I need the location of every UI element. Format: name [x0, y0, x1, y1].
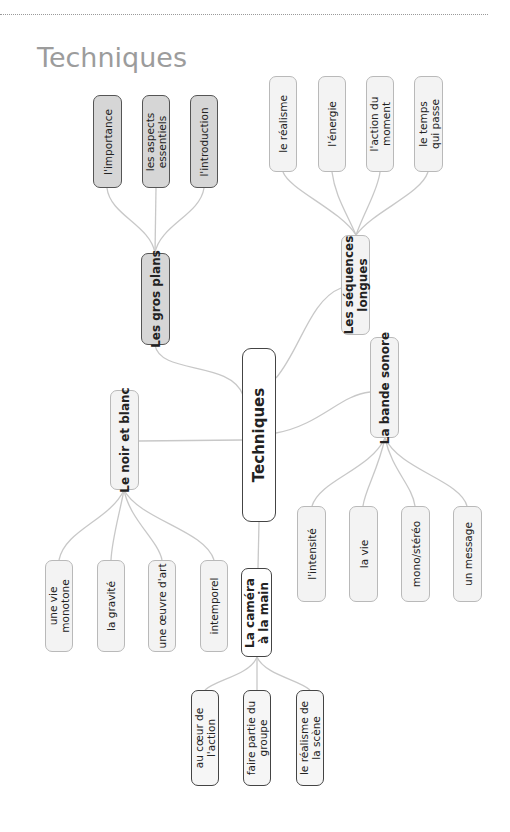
branch-label: La caméra à la main: [243, 578, 271, 648]
leaf-label: faire partie du groupe: [245, 701, 269, 776]
central-node-label: Techniques: [253, 388, 265, 482]
branch-label: Les gros plans: [149, 250, 163, 348]
leaf-label: le temps qui passe: [417, 99, 441, 149]
leaf-node-coeur-de-l-action[interactable]: au cœur de l'action: [191, 690, 219, 786]
leaf-label: l'intensité: [306, 528, 318, 580]
leaf-label: l'énergie: [326, 101, 338, 147]
leaf-node-realisme-de-la-scene[interactable]: le réalisme de la scène: [296, 690, 324, 786]
leaf-node-action-du-moment[interactable]: l'action du moment: [366, 76, 394, 172]
leaf-node-la-vie[interactable]: la vie: [349, 506, 378, 602]
leaf-label: une œuvre d'art: [156, 563, 168, 648]
leaf-node-aspects-essentiels[interactable]: les aspects essentiels: [142, 95, 170, 188]
leaf-label: l'introduction: [198, 107, 210, 176]
leaf-label: l'action du moment: [368, 97, 392, 152]
leaf-node-gravite[interactable]: la gravité: [97, 560, 125, 652]
leaf-node-importance[interactable]: l'importance: [93, 95, 122, 188]
branch-label: Les séquences longues: [342, 236, 370, 335]
leaf-label: le réalisme: [277, 95, 289, 153]
leaf-node-oeuvre-d-art[interactable]: une œuvre d'art: [148, 560, 176, 652]
leaf-node-mono-stereo[interactable]: mono/stéréo: [401, 506, 430, 602]
leaf-node-vie-monotone[interactable]: une vie monotone: [45, 560, 73, 652]
branch-node-bande-sonore[interactable]: La bande sonore: [370, 337, 399, 438]
leaf-node-temps-qui-passe[interactable]: le temps qui passe: [414, 76, 443, 172]
leaf-node-intensite[interactable]: l'intensité: [297, 506, 326, 602]
branch-label: Le noir et blanc: [118, 387, 132, 492]
leaf-label: mono/stéréo: [410, 521, 422, 587]
leaf-label: intemporel: [208, 578, 220, 635]
leaf-node-intemporel[interactable]: intemporel: [200, 560, 228, 652]
leaf-node-un-message[interactable]: un message: [453, 506, 482, 602]
leaf-label: l'importance: [102, 109, 114, 175]
leaf-label: la gravité: [105, 581, 117, 631]
leaf-label: un message: [462, 522, 474, 586]
leaf-label: le réalisme de la scène: [298, 701, 322, 775]
leaf-node-faire-partie-du-groupe[interactable]: faire partie du groupe: [243, 690, 271, 786]
branch-node-noir-et-blanc[interactable]: Le noir et blanc: [110, 390, 139, 490]
leaf-label: la vie: [358, 540, 370, 568]
branch-label: La bande sonore: [378, 331, 392, 443]
leaf-node-energie[interactable]: l'énergie: [318, 76, 346, 172]
branch-node-gros-plans[interactable]: Les gros plans: [141, 253, 170, 345]
leaf-node-realisme[interactable]: le réalisme: [269, 76, 297, 172]
central-node-techniques[interactable]: Techniques: [242, 348, 276, 522]
branch-node-sequences-longues[interactable]: Les séquences longues: [341, 235, 370, 335]
leaf-label: les aspects essentiels: [144, 112, 168, 171]
branch-node-camera-a-la-main[interactable]: La caméra à la main: [241, 568, 272, 657]
leaf-label: au cœur de l'action: [193, 708, 217, 768]
leaf-node-introduction[interactable]: l'introduction: [190, 95, 218, 188]
leaf-label: une vie monotone: [47, 579, 71, 632]
